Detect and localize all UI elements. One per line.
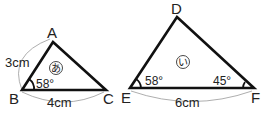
triangle-a: A B C 3cm 4cm 58° あ xyxy=(5,24,114,110)
side-bc-length: 4cm xyxy=(47,95,72,110)
side-ab-length: 3cm xyxy=(5,55,30,70)
angle-f-value: 45° xyxy=(213,74,231,88)
triangle-i-id: い xyxy=(178,57,188,68)
angle-b-arc xyxy=(29,79,34,90)
triangles-diagram: A B C 3cm 4cm 58° あ D E F 6cm 58° 45° い xyxy=(0,0,268,124)
triangle-i: D E F 6cm 58° 45° い xyxy=(121,0,260,110)
angle-e-arc xyxy=(136,79,141,88)
vertex-e: E xyxy=(121,89,131,106)
vertex-f: F xyxy=(251,89,260,106)
vertex-d: D xyxy=(171,0,182,17)
vertex-b: B xyxy=(9,90,19,107)
vertex-a: A xyxy=(47,24,57,41)
triangle-a-id: あ xyxy=(51,63,61,74)
triangle-abc xyxy=(22,42,106,90)
side-ef-length: 6cm xyxy=(175,95,200,110)
angle-b-value: 58° xyxy=(36,77,54,91)
vertex-c: C xyxy=(103,90,114,107)
angle-e-value: 58° xyxy=(145,74,163,88)
